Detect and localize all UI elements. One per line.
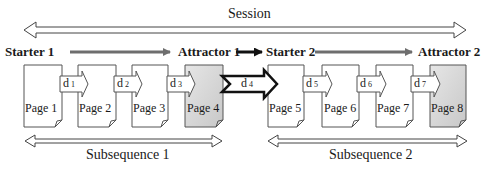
attractor-1-label: Attractor 1 [178, 44, 240, 60]
page-1-label: Page 1 [25, 101, 57, 116]
page-7-label: Page 7 [377, 101, 409, 116]
transition-label-d4: d4 [241, 76, 253, 91]
subsequence-2-label: Subsequence 2 [329, 147, 413, 163]
attractor-2-label: Attractor 2 [418, 44, 480, 60]
transition-label-d2: d2 [117, 76, 129, 91]
transition-label-d1: d1 [63, 76, 75, 91]
page-6-label: Page 6 [324, 101, 356, 116]
transition-label-d6: d6 [360, 76, 372, 91]
page-2-label: Page 2 [79, 101, 111, 116]
subsequence-1-label: Subsequence 1 [86, 147, 170, 163]
session-label: Session [228, 6, 271, 22]
subsequence-2-arrow [268, 135, 467, 147]
page-5-label: Page 5 [269, 101, 301, 116]
transition-label-d7: d7 [414, 76, 426, 91]
starter-1-label: Starter 1 [5, 44, 54, 60]
subsequence-1-arrow [25, 135, 222, 147]
page-5 [268, 65, 304, 127]
transition-label-d5: d5 [306, 76, 318, 91]
session-diagram: Session Starter 1 Attractor 1 Starter 2 … [0, 0, 491, 169]
starter-2-label: Starter 2 [266, 44, 315, 60]
transition-label-d3: d3 [170, 76, 182, 91]
page-3-label: Page 3 [133, 101, 165, 116]
session-arrow [24, 22, 466, 38]
page-4-label: Page 4 [187, 101, 219, 116]
page-8-label: Page 8 [431, 101, 463, 116]
page-1 [24, 65, 62, 127]
